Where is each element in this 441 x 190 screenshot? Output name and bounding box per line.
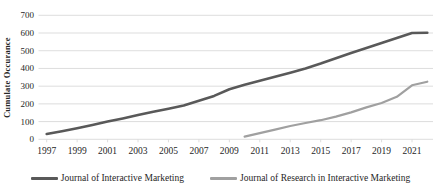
x-tick-label: 2003 (122, 146, 154, 156)
x-tick-label: 2015 (305, 146, 337, 156)
legend-label: Journal of Research in Interactive Marke… (240, 173, 410, 183)
x-tick-label: 2017 (335, 146, 367, 156)
x-tick-label: 1997 (31, 146, 63, 156)
plot-area (0, 0, 441, 190)
y-tick-label: 600 (0, 28, 34, 38)
x-tick-label: 2013 (274, 146, 306, 156)
legend-label: Journal of Interactive Marketing (61, 173, 184, 183)
x-tick-label: 1999 (61, 146, 93, 156)
y-tick-label: 100 (0, 117, 34, 127)
series-line (245, 82, 428, 137)
x-tick-label: 2007 (183, 146, 215, 156)
y-tick-label: 200 (0, 99, 34, 109)
y-tick-label: 500 (0, 46, 34, 56)
series-line (47, 33, 428, 134)
x-tick-label: 2019 (366, 146, 398, 156)
legend-line-swatch (31, 177, 58, 180)
x-tick-label: 2001 (92, 146, 124, 156)
y-tick-label: 700 (0, 10, 34, 20)
x-tick-label: 2021 (396, 146, 428, 156)
legend: Journal of Interactive MarketingJournal … (0, 171, 441, 185)
legend-line-swatch (210, 177, 237, 180)
line-chart: Cumulate Occurance 010020030040050060070… (0, 0, 441, 190)
y-tick-label: 400 (0, 63, 34, 73)
y-tick-label: 300 (0, 81, 34, 91)
x-tick-label: 2011 (244, 146, 276, 156)
legend-item: Journal of Interactive Marketing (31, 173, 184, 183)
legend-item: Journal of Research in Interactive Marke… (210, 173, 410, 183)
y-tick-label: 0 (0, 134, 34, 144)
x-tick-label: 2009 (213, 146, 245, 156)
x-tick-label: 2005 (152, 146, 184, 156)
